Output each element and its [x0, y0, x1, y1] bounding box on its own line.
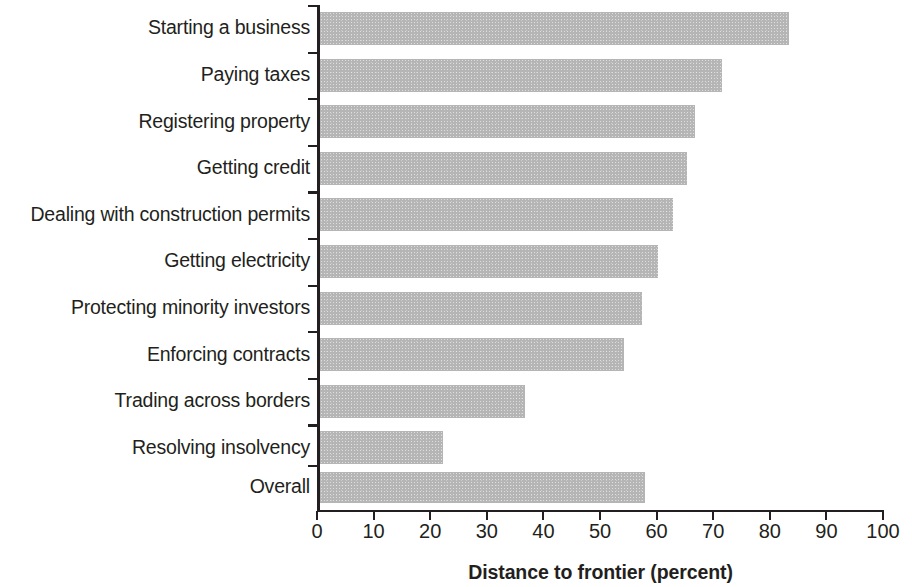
category-label: Registering property [0, 112, 310, 132]
x-axis-tick [712, 511, 714, 520]
x-axis-tick-label: 80 [759, 521, 781, 541]
x-axis-tick [486, 511, 488, 520]
x-axis-tick [882, 511, 884, 520]
x-axis-tick-label: 20 [419, 521, 441, 541]
x-axis-tick-label: 70 [702, 521, 724, 541]
x-axis-tick-label: 60 [645, 521, 667, 541]
y-axis-tick [308, 285, 317, 287]
category-axis-labels: Starting a business Paying taxes Registe… [0, 5, 310, 510]
x-axis-tick [769, 511, 771, 520]
category-label: Overall [0, 477, 310, 497]
category-label: Enforcing contracts [0, 345, 310, 365]
bar [317, 12, 789, 45]
y-axis-tick [308, 52, 317, 54]
bar-chart: Starting a business Paying taxes Registe… [0, 0, 912, 587]
x-axis-tick-label: 0 [311, 521, 322, 541]
category-label: Getting credit [0, 158, 310, 178]
x-axis-tick-label: 90 [815, 521, 837, 541]
x-axis-title: Distance to frontier (percent) [317, 561, 884, 584]
category-label: Getting electricity [0, 252, 310, 272]
category-label: Resolving insolvency [0, 438, 310, 458]
x-axis-tick-label: 40 [532, 521, 554, 541]
bar [317, 245, 658, 278]
x-axis-tick-label: 10 [362, 521, 384, 541]
x-axis-tick [316, 511, 318, 520]
x-axis-tick-label: 50 [589, 521, 611, 541]
bar [317, 292, 642, 325]
x-axis-tick-label: 30 [476, 521, 498, 541]
category-label: Dealing with construction permits [0, 205, 310, 225]
x-axis-tick [656, 511, 658, 520]
category-label: Trading across borders [0, 391, 310, 411]
category-label: Paying taxes [0, 65, 310, 85]
x-axis-tick [542, 511, 544, 520]
y-axis-tick [308, 98, 317, 100]
x-axis-tick-label: 100 [866, 521, 899, 541]
y-axis-tick [308, 145, 317, 147]
y-axis-tick [308, 191, 317, 193]
y-axis-tick [308, 238, 317, 240]
y-axis-tick [308, 331, 317, 333]
x-axis-tick [373, 511, 375, 520]
bar [317, 59, 722, 92]
x-axis-tick [825, 511, 827, 520]
y-axis-tick [308, 5, 317, 7]
bar [317, 105, 695, 138]
bar [317, 152, 687, 185]
category-label: Starting a business [0, 19, 310, 39]
x-axis-tick [599, 511, 601, 520]
bar [317, 431, 443, 464]
y-axis-tick [308, 424, 317, 426]
bar [317, 338, 624, 371]
plot-area [317, 5, 883, 510]
bar [317, 385, 525, 418]
bar [317, 472, 645, 503]
y-axis-tick [308, 378, 317, 380]
category-label: Protecting minority investors [0, 298, 310, 318]
y-axis-line [317, 5, 320, 511]
y-axis-tick [308, 465, 317, 467]
bar [317, 198, 673, 231]
x-axis-tick [429, 511, 431, 520]
